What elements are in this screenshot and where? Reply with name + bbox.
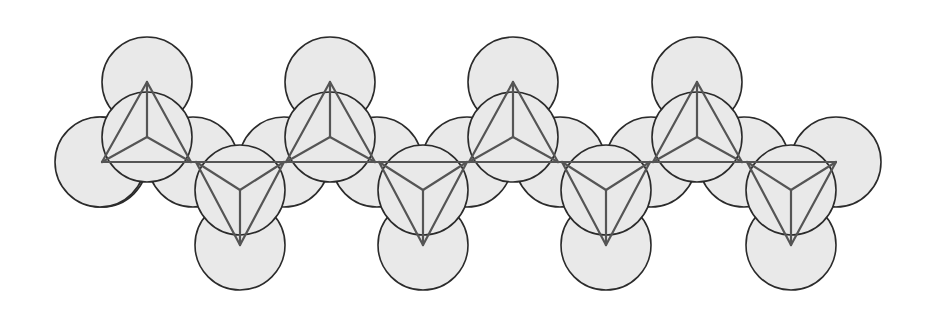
tetrahedra-chain-diagram	[0, 0, 941, 313]
